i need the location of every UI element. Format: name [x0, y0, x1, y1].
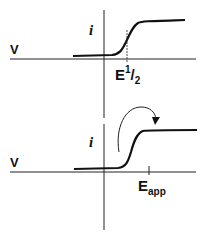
top-y-axis-label: i [89, 22, 93, 39]
arrow-head-icon [152, 117, 160, 125]
applied-sub: app [148, 186, 166, 197]
bottom-y-axis-label: i [89, 134, 93, 151]
top-x-axis-label: V [10, 42, 19, 57]
half-wave-sub: 2 [135, 75, 141, 86]
half-wave-sup: 1 [125, 64, 131, 75]
applied-potential-label: Eapp [138, 177, 166, 194]
diagram [0, 0, 208, 237]
bottom-x-axis-label: V [10, 155, 19, 170]
half-wave-potential-label: E1/2 [115, 66, 140, 83]
applied-base: E [138, 177, 148, 194]
half-wave-base: E [115, 66, 125, 83]
